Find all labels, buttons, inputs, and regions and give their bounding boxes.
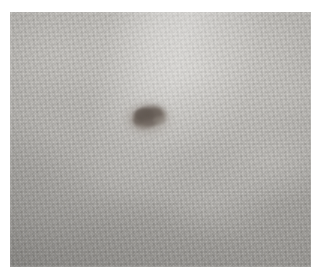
skin-mottling [10,12,311,267]
pigmented-lesion [118,93,180,145]
skin-weave-texture [10,12,311,267]
skin-vignette [10,12,311,267]
photo-plate-edge [10,12,311,267]
skin-photograph [10,12,311,267]
skin-striations-primary [10,12,311,267]
skin-base-tone [10,12,311,267]
image-viewport [0,0,320,279]
skin-micro-grain [10,12,311,267]
photo-soften-overlay [10,12,311,267]
skin-striations-secondary [10,12,311,267]
skin-specular-highlight [10,12,311,267]
